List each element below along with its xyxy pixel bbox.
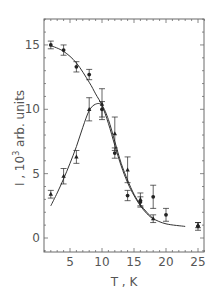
triangle-marker-icon [49, 192, 53, 196]
triangle-marker-icon [196, 223, 200, 227]
circle-marker-icon [75, 65, 79, 69]
fit-circles-line [51, 46, 185, 227]
fit-triangles-line [51, 103, 153, 218]
circle-marker-icon [151, 195, 155, 199]
circles-point [73, 62, 79, 72]
x-tick-label: 20 [158, 255, 173, 269]
triangles-point [48, 190, 54, 198]
triangle-marker-icon [125, 167, 129, 171]
x-tick-label: 10 [94, 255, 109, 269]
circles-point [163, 208, 169, 221]
triangle-marker-icon [138, 197, 142, 201]
triangles-point [195, 223, 201, 228]
circle-marker-icon [62, 48, 66, 52]
circle-marker-icon [113, 151, 117, 155]
triangles-point [61, 169, 67, 184]
x-axis-label: T , K [110, 275, 139, 289]
circles-point [150, 185, 156, 208]
axis-ticks [44, 19, 204, 252]
x-tick-labels: 510152025 [66, 255, 205, 269]
circle-marker-icon [87, 73, 91, 77]
y-axis-label-suffix: arb. units [13, 90, 27, 151]
circle-marker-icon [126, 194, 130, 198]
triangle-marker-icon [113, 131, 117, 135]
chart: 051015 510152025 T , K I , 103 arb. unit… [0, 0, 215, 297]
data-points [48, 41, 201, 230]
triangle-marker-icon [74, 155, 78, 159]
circle-marker-icon [49, 43, 53, 47]
y-tick-labels: 051015 [25, 38, 40, 245]
circles-point [48, 41, 54, 49]
x-tick-label: 25 [190, 255, 205, 269]
x-tick-label: 15 [126, 255, 141, 269]
circle-marker-icon [164, 213, 168, 217]
fit-curves [51, 46, 185, 227]
y-axis-label-prefix: I , 10 [13, 156, 27, 186]
y-tick-label: 15 [25, 38, 40, 52]
y-tick-label: 5 [32, 167, 40, 181]
plot-frame [44, 19, 204, 252]
triangles-point [137, 193, 143, 206]
y-tick-label: 10 [25, 102, 40, 116]
y-axis-label: I , 103 arb. units [12, 90, 27, 186]
circles-point [125, 190, 131, 200]
y-tick-label: 0 [32, 231, 40, 245]
x-tick-label: 5 [66, 255, 74, 269]
triangles-point [86, 98, 92, 121]
